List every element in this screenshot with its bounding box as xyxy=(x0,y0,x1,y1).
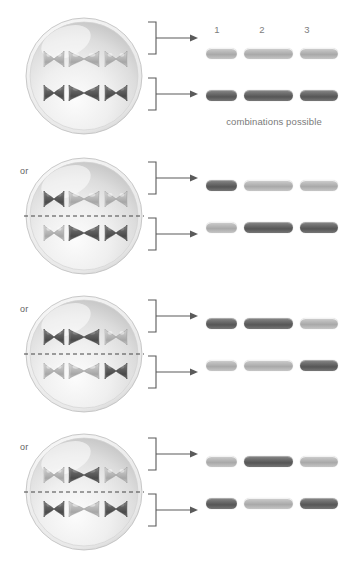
gamete-row-bottom xyxy=(200,498,341,512)
gamete-band xyxy=(206,456,237,467)
cell-diagram xyxy=(24,14,144,138)
gamete-band xyxy=(244,456,293,467)
gamete-band xyxy=(300,180,338,191)
gamete-row-bottom xyxy=(200,90,341,104)
assortment-panel-2: or xyxy=(0,282,341,422)
gamete-band xyxy=(300,360,338,371)
gamete-row-top xyxy=(200,180,341,194)
gamete-band xyxy=(300,498,338,509)
gamete-band xyxy=(206,498,237,509)
gamete-row-bottom xyxy=(200,222,341,236)
gamete-band xyxy=(206,90,237,101)
figure-caption: combinations possible xyxy=(204,116,341,127)
assortment-panel-0: 123combinations possible xyxy=(0,4,341,144)
band-column-headers: 123 xyxy=(200,24,341,40)
gamete-band xyxy=(206,48,237,59)
gamete-band xyxy=(244,90,293,101)
gamete-band xyxy=(244,498,293,509)
gamete-band xyxy=(244,360,293,371)
gamete-band xyxy=(206,318,237,329)
gamete-band xyxy=(300,90,338,101)
gamete-band-group xyxy=(200,420,341,560)
gamete-band xyxy=(206,360,237,371)
band-column-header-3: 3 xyxy=(297,24,317,35)
bracket-arrow-group xyxy=(146,158,206,268)
gamete-band-group xyxy=(200,144,341,284)
cell xyxy=(24,14,144,138)
gamete-band-group xyxy=(200,282,341,422)
gamete-brackets xyxy=(146,158,206,268)
gamete-band xyxy=(300,48,338,59)
gamete-band xyxy=(244,318,293,329)
cell-diagram xyxy=(24,154,144,278)
cell xyxy=(24,430,144,554)
gamete-band xyxy=(206,180,237,191)
gamete-band xyxy=(300,456,338,467)
cell-diagram xyxy=(24,292,144,416)
independent-assortment-figure: 123combinations possibleororor xyxy=(0,0,341,579)
cell-diagram xyxy=(24,430,144,554)
gamete-row-top xyxy=(200,48,341,62)
band-column-header-2: 2 xyxy=(252,24,272,35)
bracket-arrow-group xyxy=(146,18,206,128)
gamete-band xyxy=(300,222,338,233)
gamete-band xyxy=(244,222,293,233)
gamete-band xyxy=(244,180,293,191)
bracket-arrow-group xyxy=(146,434,206,544)
gamete-band xyxy=(244,48,293,59)
gamete-brackets xyxy=(146,18,206,128)
gamete-brackets xyxy=(146,296,206,406)
gamete-row-top xyxy=(200,318,341,332)
assortment-panel-3: or xyxy=(0,420,341,560)
bracket-arrow-group xyxy=(146,296,206,406)
gamete-row-top xyxy=(200,456,341,470)
assortment-panel-1: or xyxy=(0,144,341,284)
gamete-row-bottom xyxy=(200,360,341,374)
gamete-band xyxy=(300,318,338,329)
gamete-brackets xyxy=(146,434,206,544)
cell xyxy=(24,292,144,416)
cell xyxy=(24,154,144,278)
band-column-header-1: 1 xyxy=(207,24,227,35)
gamete-band xyxy=(206,222,237,233)
